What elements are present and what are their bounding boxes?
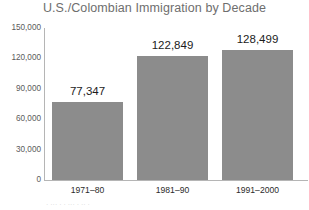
x-axis-tick-label: 1991–2000 — [208, 185, 307, 195]
y-axis-tick-label: 120,000 — [1, 53, 41, 62]
bar — [222, 50, 293, 180]
y-axis-tick-label: 60,000 — [1, 114, 41, 123]
bar-value-label: 77,347 — [40, 85, 135, 97]
y-axis-tick-labels: 030,00060,00090,000120,000150,000 — [0, 0, 41, 210]
chart-figure: U.S./Colombian Immigration by Decade 030… — [0, 0, 309, 210]
y-axis-tick-label: 90,000 — [1, 84, 41, 93]
y-axis-tick-label: 0 — [1, 175, 41, 184]
chart-title: U.S./Colombian Immigration by Decade — [0, 1, 309, 15]
plot-area — [45, 28, 308, 180]
bar-value-label: 128,499 — [210, 33, 305, 45]
y-axis-tick-label: 150,000 — [1, 23, 41, 32]
bar — [137, 56, 208, 180]
bottom-caption: · ··· · · ··· · ·· · — [46, 201, 246, 210]
bar — [52, 102, 123, 180]
y-axis-tick-label: 30,000 — [1, 145, 41, 154]
bar-value-label: 122,849 — [125, 39, 220, 51]
x-axis-line — [44, 180, 308, 181]
